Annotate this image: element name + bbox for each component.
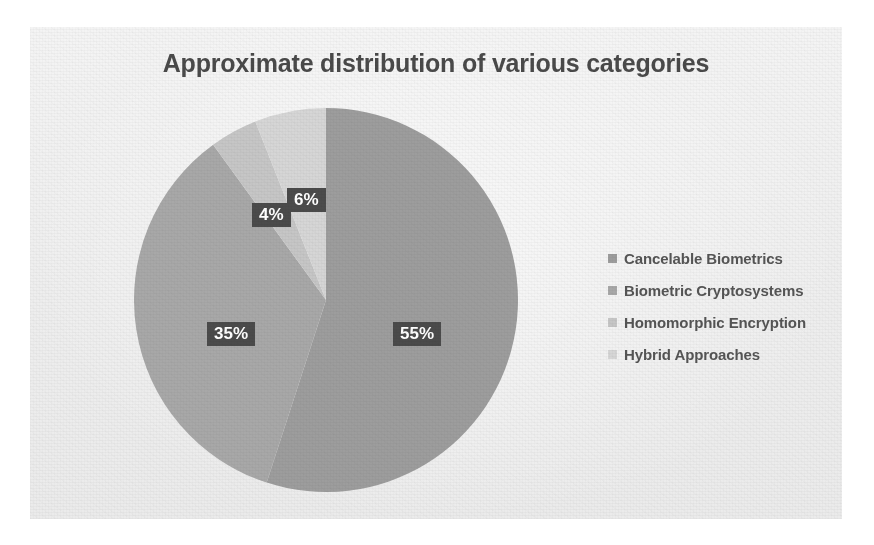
chart-legend: Cancelable Biometrics Biometric Cryptosy… xyxy=(608,242,806,370)
legend-swatch-icon xyxy=(608,318,617,327)
legend-item-cancelable-biometrics[interactable]: Cancelable Biometrics xyxy=(608,242,806,274)
legend-item-label: Homomorphic Encryption xyxy=(624,314,806,331)
legend-item-label: Biometric Cryptosystems xyxy=(624,282,803,299)
pie-chart-svg xyxy=(134,108,518,492)
chart-title: Approximate distribution of various cate… xyxy=(30,49,842,78)
pie-slice-label-homomorphic-encryption: 4% xyxy=(252,203,291,227)
page-background: Approximate distribution of various cate… xyxy=(0,0,874,545)
chart-panel: Approximate distribution of various cate… xyxy=(30,27,842,519)
legend-item-label: Cancelable Biometrics xyxy=(624,250,783,267)
legend-swatch-icon xyxy=(608,286,617,295)
pie-slice-label-biometric-cryptosystems: 35% xyxy=(207,322,255,346)
pie-slice-label-hybrid-approaches: 6% xyxy=(287,188,326,212)
pie-chart xyxy=(134,108,518,492)
legend-item-label: Hybrid Approaches xyxy=(624,346,760,363)
pie-slice-label-cancelable-biometrics: 55% xyxy=(393,322,441,346)
legend-item-homomorphic-encryption[interactable]: Homomorphic Encryption xyxy=(608,306,806,338)
legend-swatch-icon xyxy=(608,350,617,359)
legend-swatch-icon xyxy=(608,254,617,263)
legend-item-hybrid-approaches[interactable]: Hybrid Approaches xyxy=(608,338,806,370)
legend-item-biometric-cryptosystems[interactable]: Biometric Cryptosystems xyxy=(608,274,806,306)
